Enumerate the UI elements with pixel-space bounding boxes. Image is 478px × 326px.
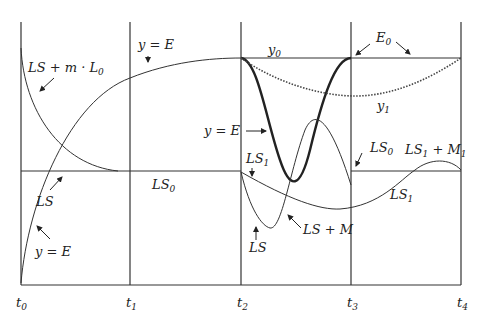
curve-LS-plus-M <box>241 120 351 229</box>
labels: LS + m · L0 y = E y = E LS y = E LS0 y0 … <box>27 30 466 259</box>
label-LS-plus-M: LS + M <box>302 222 354 237</box>
arrow-ls-left <box>50 177 62 190</box>
label-LS-lower: LS <box>248 240 267 255</box>
label-y0: y0 <box>267 42 281 59</box>
diagram-canvas: LS + m · L0 y = E y = E LS y = E LS0 y0 … <box>0 0 478 326</box>
arrow-E0-left <box>356 44 370 55</box>
arrow-LS0-right <box>356 153 362 166</box>
curve-LS1 <box>241 170 415 209</box>
label-LS1-plus-M1: LS1 + M1 <box>404 142 466 159</box>
label-LS0-right: LS0 <box>369 140 394 157</box>
curve-LS1-plus-M1 <box>415 161 461 170</box>
label-y-eq-E-top: y = E <box>137 37 175 52</box>
arrow-E0-right <box>396 42 410 54</box>
time-tick-labels: t0 t1 t2 t3 t4 <box>16 295 468 312</box>
label-LS1-right: LS1 <box>389 187 413 204</box>
label-LS1-upper: LS1 <box>245 151 269 168</box>
tick-t4: t4 <box>457 295 468 312</box>
tick-t1: t1 <box>126 295 137 312</box>
label-ls-plus-mL0: LS + m · L0 <box>27 60 104 77</box>
label-LS0-mid: LS0 <box>151 177 176 194</box>
arrow-LS-plus-M <box>288 215 301 228</box>
arrow-ls-plus-mL0 <box>40 78 54 91</box>
label-y-eq-E-mid: y = E <box>203 123 241 138</box>
arrow-y-eq-E-bottom <box>37 226 50 239</box>
label-y-eq-E-bottom: y = E <box>34 244 72 259</box>
tick-t0: t0 <box>16 295 27 312</box>
tick-t2: t2 <box>237 295 248 312</box>
tick-t3: t3 <box>347 295 358 312</box>
label-ls-left: LS <box>35 194 54 209</box>
label-E0: E0 <box>375 30 392 47</box>
label-y1: y1 <box>376 98 390 115</box>
